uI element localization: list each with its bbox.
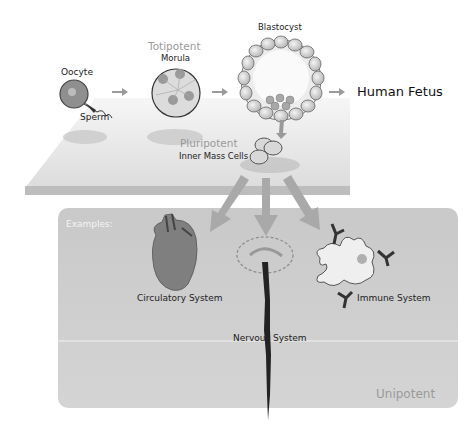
morula-icon xyxy=(152,69,200,117)
circulatory-system-label: Circulatory System xyxy=(137,293,222,303)
nervous-system-label: Nervous System xyxy=(233,333,307,343)
human-fetus-label: Human Fetus xyxy=(357,84,443,99)
blastocyst-label: Blastocyst xyxy=(258,22,302,32)
heart-icon xyxy=(152,214,197,290)
morula-label: Morula xyxy=(161,53,190,63)
inner-mass-cells-label: Inner Mass Cells xyxy=(179,151,248,161)
totipotent-label: Totipotent xyxy=(148,40,201,52)
sperm-label: Sperm xyxy=(80,112,109,122)
pluripotent-label: Pluripotent xyxy=(180,137,238,149)
unipotent-label: Unipotent xyxy=(376,387,435,401)
diagram-graphics xyxy=(0,0,475,428)
oocyte-label: Oocyte xyxy=(61,67,93,77)
immune-system-label: Immune System xyxy=(357,293,431,303)
examples-title: Examples: xyxy=(66,219,113,229)
